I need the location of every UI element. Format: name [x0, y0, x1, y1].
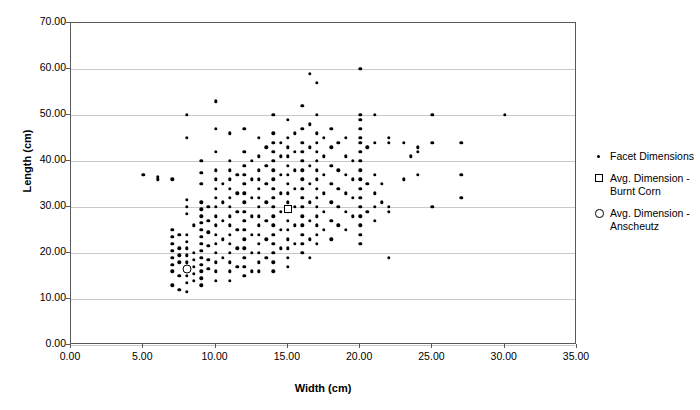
facet-dimension-point: [257, 233, 260, 236]
facet-dimension-point: [293, 205, 296, 208]
facet-dimension-point: [344, 136, 347, 139]
facet-dimension-point: [344, 228, 347, 231]
facet-dimension-point: [358, 205, 361, 208]
facet-dimension-point: [272, 141, 275, 144]
facet-dimension-point: [250, 270, 253, 273]
facet-dimension-point: [199, 256, 202, 259]
facet-dimension-point: [250, 233, 253, 236]
facet-dimension-point: [170, 228, 173, 231]
x-tick-mark: [215, 344, 216, 348]
facet-dimension-point: [170, 249, 173, 252]
legend-circle-icon: [594, 207, 610, 220]
x-tick-label: 30.00: [474, 350, 534, 362]
facet-dimension-point: [431, 113, 434, 116]
facet-dimension-point: [315, 224, 318, 227]
facet-dimension-point: [387, 205, 390, 208]
facet-dimension-point: [301, 178, 304, 181]
facet-dimension-point: [503, 113, 506, 116]
avg-dimension-burnt-corn-marker: [284, 205, 292, 213]
facet-dimension-point: [257, 251, 260, 254]
x-tick-label: 0.00: [40, 350, 100, 362]
facet-dimension-point: [387, 136, 390, 139]
x-tick-label: 25.00: [401, 350, 461, 362]
facet-dimension-point: [286, 265, 289, 268]
facet-dimension-point: [207, 231, 210, 234]
facet-dimension-point: [330, 237, 333, 240]
x-tick-label: 15.00: [257, 350, 317, 362]
facet-dimension-point: [286, 182, 289, 185]
facet-dimension-point: [301, 224, 304, 227]
facet-dimension-point: [214, 178, 217, 181]
facet-dimension-point: [199, 159, 202, 162]
facet-dimension-point: [192, 258, 195, 261]
facet-dimension-point: [301, 233, 304, 236]
facet-dimension-point: [272, 196, 275, 199]
facet-dimension-point: [243, 150, 246, 153]
facet-dimension-point: [178, 247, 181, 250]
facet-dimension-point: [264, 145, 267, 148]
facet-dimension-point: [337, 168, 340, 171]
facet-dimension-point: [308, 145, 311, 148]
facet-dimension-point: [272, 113, 275, 116]
facet-dimension-point: [228, 168, 231, 171]
marker-glyph: [597, 155, 600, 158]
facet-dimension-point: [315, 205, 318, 208]
facet-dimension-point: [286, 247, 289, 250]
facet-dimension-point: [272, 270, 275, 273]
facet-dimension-point: [214, 270, 217, 273]
facet-dimension-point: [366, 210, 369, 213]
facet-dimension-point: [243, 219, 246, 222]
facet-dimension-point: [301, 214, 304, 217]
facet-dimension-point: [257, 224, 260, 227]
facet-dimension-point: [358, 224, 361, 227]
facet-dimension-point: [286, 136, 289, 139]
facet-dimension-point: [380, 201, 383, 204]
facet-dimension-point: [279, 210, 282, 213]
facet-dimension-point: [344, 173, 347, 176]
facet-dimension-point: [308, 122, 311, 125]
facet-dimension-point: [301, 159, 304, 162]
facet-dimension-point: [272, 132, 275, 135]
facet-dimension-point: [366, 145, 369, 148]
facet-dimension-point: [286, 201, 289, 204]
facet-dimension-point: [322, 136, 325, 139]
facet-dimension-point: [199, 228, 202, 231]
facet-dimension-point: [358, 150, 361, 153]
facet-dimension-point: [243, 256, 246, 259]
marker-glyph: [595, 209, 604, 218]
facet-dimension-point: [286, 219, 289, 222]
facet-dimension-point: [293, 132, 296, 135]
facet-dimension-point: [358, 67, 361, 70]
facet-dimension-point: [308, 72, 311, 75]
facet-dimension-point: [199, 201, 202, 204]
facet-dimension-point: [199, 263, 202, 266]
facet-dimension-point: [185, 240, 188, 243]
facet-dimension-point: [257, 260, 260, 263]
facet-dimension-point: [322, 173, 325, 176]
facet-dimension-point: [460, 173, 463, 176]
facet-dimension-point: [315, 196, 318, 199]
facet-dimension-point: [373, 219, 376, 222]
facet-dimension-point: [185, 260, 188, 263]
facet-dimension-point: [192, 251, 195, 254]
facet-dimension-point: [243, 182, 246, 185]
facet-dimension-point: [243, 247, 246, 250]
facet-dimension-point: [257, 205, 260, 208]
facet-dimension-point: [286, 191, 289, 194]
x-tick-label: 20.00: [329, 350, 389, 362]
facet-dimension-point: [358, 168, 361, 171]
facet-dimension-point: [272, 205, 275, 208]
facet-dimension-point: [337, 224, 340, 227]
facet-dimension-point: [279, 191, 282, 194]
facet-dimension-point: [178, 274, 181, 277]
facet-dimension-point: [243, 228, 246, 231]
gridline: [71, 299, 575, 300]
facet-dimension-point: [228, 196, 231, 199]
facet-dimension-point: [185, 205, 188, 208]
facet-dimension-point: [228, 214, 231, 217]
facet-dimension-point: [221, 219, 224, 222]
facet-dimension-point: [344, 155, 347, 158]
facet-dimension-point: [228, 279, 231, 282]
facet-dimension-point: [315, 214, 318, 217]
facet-dimension-point: [330, 201, 333, 204]
